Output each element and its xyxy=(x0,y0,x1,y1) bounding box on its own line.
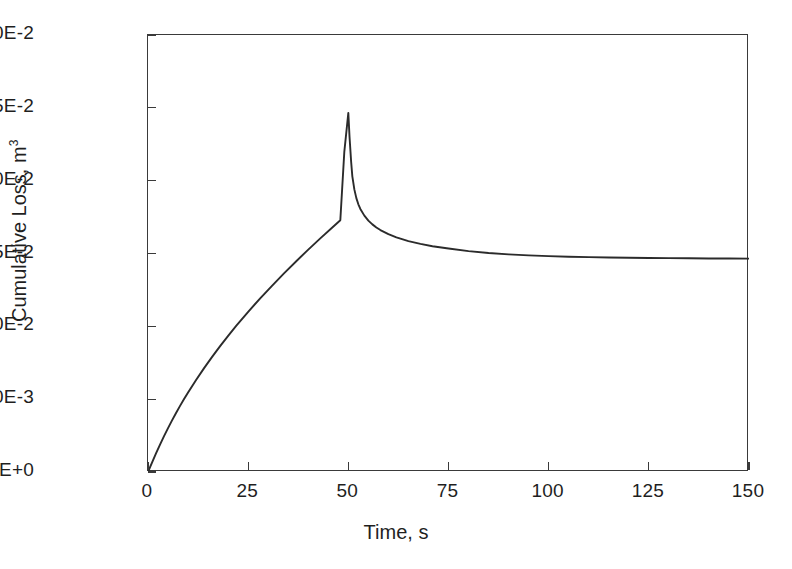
x-axis-title: Time, s xyxy=(0,521,792,544)
y-axis-title-exponent: 3 xyxy=(7,140,21,147)
x-tick-label-150: 150 xyxy=(688,480,792,502)
y-axis-title-text: Cumulative Loss, m xyxy=(8,146,30,322)
x-tick-125 xyxy=(648,462,649,470)
x-tick-75 xyxy=(448,462,449,470)
plot-area xyxy=(147,34,748,471)
y-tick-label-0.0E+0: 0.0E+0 xyxy=(0,459,34,481)
y-tick-3.0E-2 xyxy=(148,34,156,35)
y-tick-1.5E-2 xyxy=(148,253,156,254)
y-tick-label-3.0E-2: 3.0E-2 xyxy=(0,22,34,44)
series-line xyxy=(148,113,749,472)
y-tick-5.0E-3 xyxy=(148,399,156,400)
x-tick-50 xyxy=(348,462,349,470)
y-tick-label-5.0E-3: 5.0E-3 xyxy=(0,386,34,408)
x-tick-25 xyxy=(248,462,249,470)
y-tick-0.0E+0 xyxy=(148,471,156,472)
x-tick-0 xyxy=(147,462,148,470)
x-tick-150 xyxy=(748,462,749,470)
y-tick-2.0E-2 xyxy=(148,180,156,181)
y-axis-title: Cumulative Loss, m3 xyxy=(7,81,31,381)
cumulative-loss-series xyxy=(148,35,749,472)
x-tick-100 xyxy=(548,462,549,470)
chart-figure: 0255075100125150 0.0E+05.0E-31.0E-21.5E-… xyxy=(0,0,792,569)
y-tick-2.5E-2 xyxy=(148,107,156,108)
y-tick-1.0E-2 xyxy=(148,326,156,327)
